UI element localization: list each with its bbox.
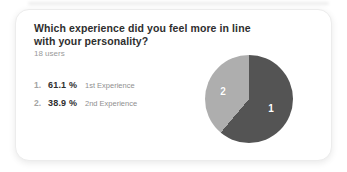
legend-row-2: 2. 38.9 % 2nd Experience	[34, 98, 204, 116]
answer-percentage: 38.9 %	[48, 98, 85, 108]
rank-number: 2.	[34, 98, 48, 108]
pie-slice-label-2: 2	[220, 86, 226, 97]
survey-result-card: Which experience did you feel more in li…	[15, 9, 332, 161]
scan-artifact-line	[28, 2, 329, 5]
pie-chart: 1 2	[205, 55, 293, 143]
answer-label: 1st Experience	[85, 81, 135, 90]
rank-number: 1.	[34, 80, 48, 90]
answer-percentage: 61.1 %	[48, 80, 85, 90]
respondent-count: 18 users	[34, 49, 65, 58]
question-title: Which experience did you feel more in li…	[34, 22, 256, 49]
pie-slice-label-1: 1	[268, 103, 274, 114]
legend-row-1: 1. 61.1 % 1st Experience	[34, 80, 204, 98]
answer-legend: 1. 61.1 % 1st Experience 2. 38.9 % 2nd E…	[34, 80, 204, 116]
answer-label: 2nd Experience	[85, 99, 137, 108]
